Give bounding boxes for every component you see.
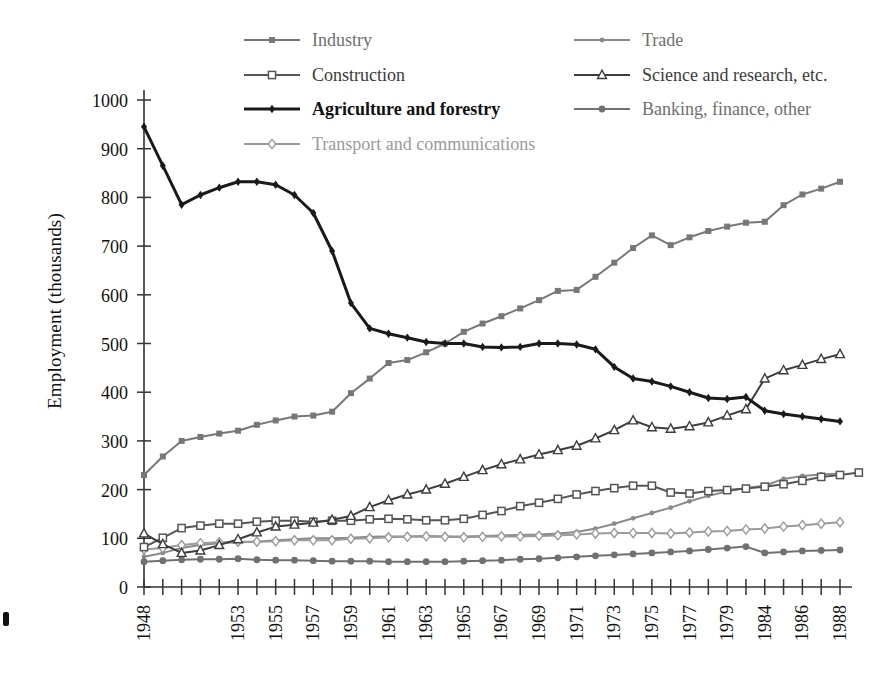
data-point xyxy=(648,550,655,557)
series-trade xyxy=(142,471,843,559)
data-point xyxy=(573,491,580,498)
x-tick-label: 1955 xyxy=(266,605,286,641)
data-point xyxy=(629,482,636,489)
data-point xyxy=(667,529,674,538)
data-point xyxy=(442,558,449,565)
page-edge-artifact xyxy=(3,612,9,626)
data-point xyxy=(141,558,148,565)
data-point xyxy=(480,321,486,327)
data-point xyxy=(536,555,543,562)
data-point xyxy=(366,534,373,543)
data-point xyxy=(216,520,223,527)
data-point xyxy=(687,234,693,240)
data-point xyxy=(423,338,429,346)
square-filled-icon xyxy=(243,31,301,49)
data-point xyxy=(461,329,467,335)
y-tick-label: 300 xyxy=(101,432,128,452)
data-point xyxy=(422,532,429,541)
chart-legend: IndustryConstructionAgriculture and fore… xyxy=(0,0,872,160)
data-point xyxy=(705,487,712,494)
chart-container: IndustryConstructionAgriculture and fore… xyxy=(0,0,872,680)
series-line xyxy=(144,547,840,562)
data-point xyxy=(517,305,523,311)
legend-item-transport-and-communications[interactable]: Transport and communications xyxy=(243,135,535,153)
data-point xyxy=(592,274,598,280)
data-point xyxy=(705,546,712,553)
data-point xyxy=(348,558,355,565)
legend-item-trade[interactable]: Trade xyxy=(573,31,683,49)
data-point xyxy=(818,473,825,480)
data-point xyxy=(592,552,599,559)
data-point xyxy=(197,434,203,440)
series-agriculture-and-forestry xyxy=(141,123,843,426)
data-point xyxy=(216,431,222,437)
legend-item-agriculture-and-forestry[interactable]: Agriculture and forestry xyxy=(243,100,500,118)
data-point xyxy=(837,179,843,185)
data-point xyxy=(536,339,542,347)
data-point xyxy=(461,339,467,347)
data-point xyxy=(724,395,730,403)
data-point xyxy=(535,531,542,540)
data-point xyxy=(197,522,204,529)
data-point xyxy=(799,548,806,555)
y-tick-label: 0 xyxy=(119,578,128,598)
x-tick-label: 1961 xyxy=(379,605,399,641)
y-tick-label: 800 xyxy=(101,188,128,208)
data-point xyxy=(423,517,430,524)
data-point xyxy=(216,183,222,191)
data-point xyxy=(612,521,617,526)
data-point xyxy=(347,534,354,543)
data-point xyxy=(310,557,317,564)
data-point xyxy=(799,191,805,197)
data-point xyxy=(629,416,638,424)
data-point xyxy=(517,556,524,563)
data-point xyxy=(404,516,411,523)
data-point xyxy=(535,499,542,506)
data-point xyxy=(498,313,504,319)
data-point xyxy=(460,515,467,522)
data-point xyxy=(404,357,410,363)
y-tick-label: 600 xyxy=(101,286,128,306)
data-point xyxy=(480,343,486,351)
data-point xyxy=(141,472,147,478)
data-point xyxy=(799,521,806,530)
x-tick-label: 1959 xyxy=(341,605,361,641)
data-point xyxy=(611,485,618,492)
data-point xyxy=(555,288,561,294)
legend-item-banking-finance-other[interactable]: Banking, finance, other xyxy=(573,100,811,118)
legend-label: Agriculture and forestry xyxy=(312,100,500,118)
data-point xyxy=(272,557,279,564)
data-point xyxy=(479,511,486,518)
data-point xyxy=(554,554,561,561)
data-point xyxy=(743,220,749,226)
data-point xyxy=(272,537,279,546)
data-point xyxy=(780,481,787,488)
data-point xyxy=(686,548,693,555)
data-point xyxy=(386,330,392,338)
data-point xyxy=(479,557,486,564)
circle-filled-icon xyxy=(573,100,631,118)
legend-label: Industry xyxy=(312,31,372,49)
series-industry xyxy=(141,179,843,478)
data-point xyxy=(761,550,768,557)
x-tick-label: 1973 xyxy=(604,605,624,641)
legend-item-science-and-research-etc[interactable]: Science and research, etc. xyxy=(573,66,827,84)
data-point xyxy=(178,524,185,531)
data-point xyxy=(404,333,410,341)
data-point xyxy=(235,178,241,186)
x-tick-label: 1957 xyxy=(303,605,323,641)
data-point xyxy=(423,558,430,565)
legend-label: Transport and communications xyxy=(312,135,535,153)
data-point xyxy=(723,526,730,535)
data-point xyxy=(385,558,392,565)
legend-label: Trade xyxy=(642,31,683,49)
legend-item-construction[interactable]: Construction xyxy=(243,66,405,84)
data-point xyxy=(517,532,524,541)
data-point xyxy=(611,260,617,266)
x-tick-label: 1975 xyxy=(642,605,662,641)
data-point xyxy=(253,556,260,563)
y-tick-label: 500 xyxy=(101,335,128,355)
legend-item-industry[interactable]: Industry xyxy=(243,31,372,49)
data-point xyxy=(460,533,467,542)
x-tick-label: 1986 xyxy=(792,605,812,641)
